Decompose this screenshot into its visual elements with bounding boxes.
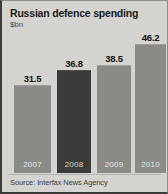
chart-card: Russian defence spending $bn 200731.5200… <box>0 0 168 194</box>
bar-2009: 2009 <box>97 65 131 173</box>
bar-group: 200836.8 <box>57 29 91 173</box>
bar-value-label-2010: 46.2 <box>135 32 166 43</box>
bar-group: 200938.5 <box>97 29 131 173</box>
bar-2008: 2008 <box>57 70 91 173</box>
bar-group: 200731.5 <box>14 29 51 173</box>
bar-2007: 2007 <box>14 85 51 173</box>
chart-units-label: $bn <box>10 20 23 29</box>
bar-category-label-2008: 2008 <box>57 160 91 169</box>
bar-value-label-2008: 36.8 <box>57 58 91 69</box>
bar-category-label-2010: 2010 <box>135 160 166 169</box>
bar-value-label-2007: 31.5 <box>14 73 51 84</box>
bar-2010: 2010 <box>135 44 166 173</box>
page-title: Russian defence spending <box>10 7 138 19</box>
chart-source: Source: Interfax News Agency <box>10 178 108 187</box>
bar-category-label-2007: 2007 <box>14 160 51 169</box>
bar-value-label-2009: 38.5 <box>97 53 131 64</box>
source-divider <box>8 174 161 175</box>
bar-category-label-2009: 2009 <box>97 160 131 169</box>
bar-chart-plot-area: 200731.5200836.8200938.5201046.2 <box>2 29 168 173</box>
chart-inner: Russian defence spending $bn 200731.5200… <box>2 1 167 192</box>
bar-group: 201046.2 <box>135 29 166 173</box>
